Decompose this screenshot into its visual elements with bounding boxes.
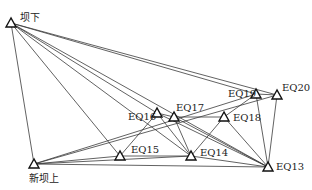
station-label: EQ20	[282, 82, 310, 93]
station-label: EQ16	[128, 111, 156, 122]
edge-badown-EQ16	[11, 23, 157, 113]
station-label: EQ15	[131, 144, 159, 155]
station-EQ20: EQ20	[272, 82, 310, 99]
station-label: EQ14	[200, 147, 228, 158]
station-label: EQ13	[276, 161, 304, 172]
station-EQ18: EQ18	[219, 112, 261, 123]
station-label: EQ19	[228, 88, 256, 99]
station-label: 新坝上	[29, 172, 59, 184]
edge-badown-EQ15	[11, 23, 120, 156]
triangle-marker-icon	[6, 18, 16, 27]
edge-badown-newbaup	[11, 23, 34, 164]
station-EQ16: EQ16	[128, 108, 162, 122]
edge-badown-EQ19	[11, 23, 256, 94]
monitoring-network-diagram: 坝下EQ16EQ17EQ19EQ20EQ18EQ15EQ14新坝上EQ13	[0, 0, 312, 190]
station-EQ17: EQ17	[169, 102, 204, 121]
edge-badown-EQ20	[11, 23, 277, 95]
station-EQ19: EQ19	[228, 88, 261, 99]
station-label: 坝下	[20, 12, 40, 23]
edge-badown-EQ14	[11, 23, 191, 156]
station-badown: 坝下	[6, 12, 40, 27]
station-label: EQ18	[233, 112, 261, 123]
edge-EQ19-EQ13	[256, 94, 268, 167]
triangle-marker-icon	[219, 112, 229, 121]
station-EQ13: EQ13	[263, 161, 304, 172]
edge-EQ20-EQ13	[268, 95, 277, 167]
edge-newbaup-EQ13	[34, 164, 268, 167]
station-label: EQ17	[176, 102, 204, 113]
